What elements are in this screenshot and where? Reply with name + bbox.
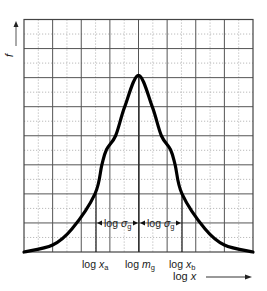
y-axis-label: f [4, 54, 15, 57]
sigma-sub: g [127, 222, 131, 231]
log-word: log [169, 258, 186, 270]
y-axis-arrow [14, 21, 19, 46]
log-word: log [125, 258, 142, 270]
mg-label: log mg [125, 259, 155, 272]
xa-sub: a [104, 263, 108, 272]
x-axis-label: log x [173, 271, 196, 282]
y-axis-label-text: f [3, 54, 15, 57]
x-axis-arrow [206, 275, 252, 280]
x-axis-var: x [191, 270, 197, 282]
chart-canvas [0, 0, 267, 291]
sigma-label-right: log σg [147, 218, 174, 231]
mg-sub: g [151, 263, 155, 272]
log-word: log [82, 258, 99, 270]
log-word: log [147, 217, 164, 229]
sigma-label-left: log σg [104, 218, 131, 231]
sigma-sub: g [170, 222, 174, 231]
log-word: log [104, 217, 121, 229]
xa-label: log xa [82, 259, 108, 272]
x-axis-prefix: log [173, 270, 191, 282]
mg-var: m [142, 258, 151, 270]
